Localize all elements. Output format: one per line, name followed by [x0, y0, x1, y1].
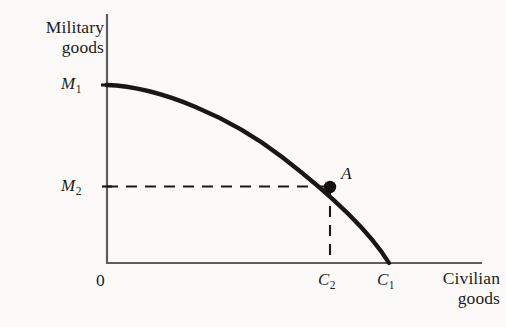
- y-axis-title-line-2: goods: [8, 37, 104, 57]
- axis-label-origin: 0: [96, 270, 105, 291]
- point-a-label: A: [341, 163, 352, 184]
- axis-label-m1: M1: [61, 74, 81, 94]
- axis-label-m2: M2: [61, 176, 81, 196]
- x-axis-title-line-1: Civilian: [396, 268, 500, 288]
- axis-label-c1: C1: [377, 270, 394, 290]
- axis-label-c2-letter: C: [318, 270, 329, 289]
- y-axis-title: Military goods: [8, 17, 104, 57]
- axis-label-m1-letter: M: [61, 74, 75, 93]
- axis-label-c1-letter: C: [377, 270, 388, 289]
- y-axis-title-line-1: Military: [8, 17, 104, 37]
- x-axis-title-line-2: goods: [396, 288, 500, 308]
- axis-label-c2-subscript: 2: [330, 279, 336, 291]
- point-a-marker: [324, 181, 336, 193]
- axis-label-c2: C2: [318, 270, 335, 290]
- axis-label-m1-subscript: 1: [76, 83, 82, 95]
- axis-label-c1-subscript: 1: [389, 279, 395, 291]
- axis-label-m2-subscript: 2: [76, 185, 82, 197]
- axis-label-m2-letter: M: [61, 176, 75, 195]
- x-axis-title: Civilian goods: [396, 268, 500, 308]
- ppf-figure: Military goods Civilian goods M1 M2 0 C2…: [0, 0, 506, 327]
